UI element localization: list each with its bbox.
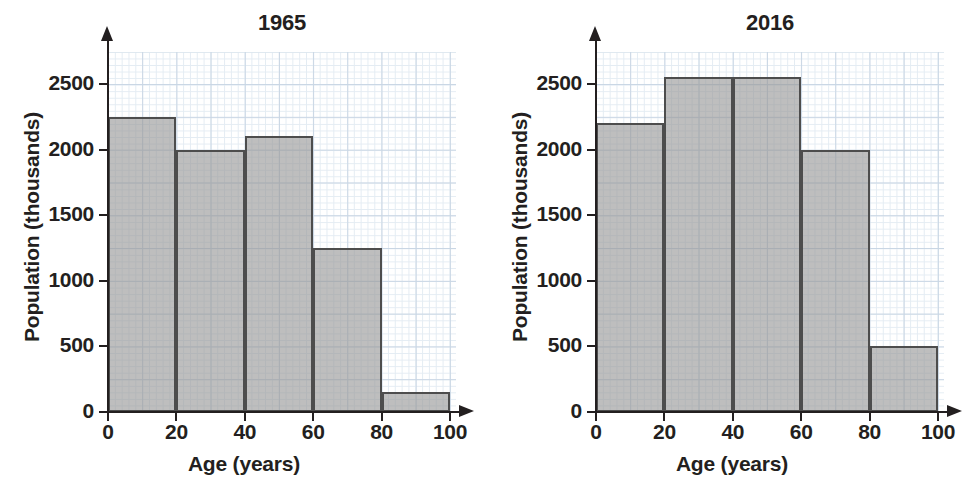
y-tick-mark	[99, 214, 109, 216]
chart-panel-2016: 2016 05001000150020002500 020406080100 A…	[488, 0, 976, 488]
y-tick-label: 0	[20, 399, 94, 423]
y-tick-mark	[587, 149, 597, 151]
x-tick-label: 80	[370, 420, 393, 444]
x-tick-label: 40	[721, 420, 744, 444]
x-tick-label: 100	[433, 420, 467, 444]
plot-area-1965: 1965 05001000150020002500 020406080100 A…	[0, 0, 488, 488]
x-tick-label: 100	[921, 420, 955, 444]
y-tick-mark	[587, 214, 597, 216]
bars-2016	[596, 52, 944, 412]
y-tick-mark	[99, 345, 109, 347]
chart-panel-1965: 1965 05001000150020002500 020406080100 A…	[0, 0, 488, 488]
bar	[313, 248, 381, 412]
y-tick-mark	[587, 345, 597, 347]
y-axis-arrow-2016	[589, 26, 601, 41]
x-axis-line-1965	[99, 411, 462, 414]
x-axis-title-1965: Age (years)	[0, 452, 488, 476]
bar	[382, 392, 450, 412]
bar	[245, 136, 313, 412]
x-axis-line-2016	[587, 411, 950, 414]
plot-area-2016: 2016 05001000150020002500 020406080100 A…	[488, 0, 976, 488]
y-tick-mark	[99, 149, 109, 151]
x-axis-arrow-2016	[947, 405, 962, 417]
figure: 1965 05001000150020002500 020406080100 A…	[0, 0, 976, 488]
x-tick-label: 20	[165, 420, 188, 444]
x-axis-title-2016: Age (years)	[488, 452, 976, 476]
y-axis-line-1965	[107, 38, 110, 413]
bar	[870, 346, 938, 412]
y-tick-mark	[587, 83, 597, 85]
y-tick-mark	[99, 280, 109, 282]
y-tick-mark	[99, 83, 109, 85]
bar	[108, 117, 176, 412]
y-tick-mark	[587, 280, 597, 282]
y-axis-arrow-1965	[101, 26, 113, 41]
bar	[664, 77, 732, 412]
bar	[596, 123, 664, 412]
bar	[176, 150, 244, 412]
bar	[801, 150, 869, 412]
x-tick-label: 40	[233, 420, 256, 444]
x-tick-label: 60	[302, 420, 325, 444]
y-axis-title-1965: Population (thousands)	[20, 77, 44, 377]
x-tick-label: 0	[590, 420, 601, 444]
bar	[733, 77, 801, 412]
panel-title-2016: 2016	[596, 10, 944, 36]
panel-title-1965: 1965	[108, 10, 456, 36]
y-axis-title-2016: Population (thousands)	[508, 77, 532, 377]
x-tick-label: 0	[102, 420, 113, 444]
bars-1965	[108, 52, 456, 412]
x-axis-arrow-1965	[459, 405, 474, 417]
y-axis-line-2016	[595, 38, 598, 413]
x-tick-label: 20	[653, 420, 676, 444]
x-tick-label: 80	[858, 420, 881, 444]
x-tick-label: 60	[790, 420, 813, 444]
y-tick-label: 0	[508, 399, 582, 423]
